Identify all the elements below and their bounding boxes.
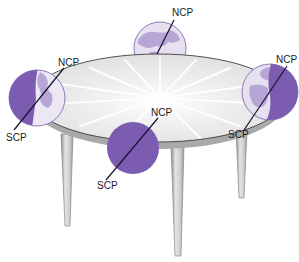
light-source [154,92,166,104]
diagram-canvas: NCP NCP SCP NCP SCP NCP SCP [0,0,299,262]
earth-axis-table-diagram: NCP NCP SCP NCP SCP NCP SCP [0,0,299,262]
label-front-ncp: NCP [151,107,172,118]
label-right-scp: SCP [228,129,249,140]
table-leg-front [171,146,184,256]
table-leg-left [61,134,73,226]
label-left-ncp: NCP [58,57,79,68]
label-back-ncp: NCP [172,7,193,18]
label-right-ncp: NCP [276,54,297,65]
label-front-scp: SCP [97,180,118,191]
label-left-scp: SCP [6,132,27,143]
globe-left-night-side [5,60,40,140]
table-leg-right [236,130,247,198]
